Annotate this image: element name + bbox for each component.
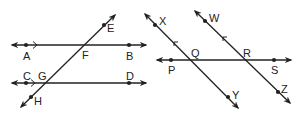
label-z: Z	[281, 83, 288, 95]
label-e: E	[107, 22, 114, 34]
point-z	[276, 90, 280, 94]
label-d: D	[126, 70, 134, 82]
points-layer	[24, 19, 280, 99]
label-w: W	[209, 12, 220, 24]
point-e	[102, 23, 106, 27]
point-h	[29, 95, 33, 99]
label-c: C	[23, 70, 31, 82]
point-s	[272, 58, 276, 62]
label-b: B	[126, 50, 133, 62]
label-s: S	[271, 64, 278, 76]
lines-layer	[12, 11, 291, 108]
geometry-diagram: ABCDEFGHXYWZPQRS	[0, 0, 297, 116]
line-eh	[21, 15, 115, 107]
point-x	[153, 23, 157, 27]
label-r: R	[243, 47, 251, 59]
label-q: Q	[191, 47, 200, 59]
line-xy	[145, 14, 238, 108]
label-g: G	[38, 70, 47, 82]
point-a	[24, 43, 28, 47]
label-p: P	[168, 64, 175, 76]
point-p	[169, 58, 173, 62]
point-y	[226, 95, 230, 99]
point-b	[127, 43, 131, 47]
label-a: A	[23, 50, 31, 62]
label-y: Y	[232, 89, 240, 101]
label-f: F	[82, 49, 89, 61]
point-w	[203, 19, 207, 23]
label-x: X	[159, 15, 167, 27]
label-h: H	[34, 95, 42, 107]
